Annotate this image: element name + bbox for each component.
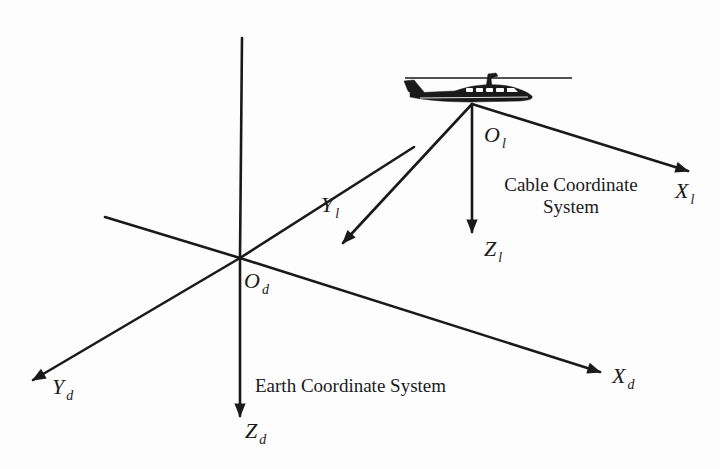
earth-y-sub: d bbox=[66, 388, 73, 403]
earth-x-axis-label: Xd bbox=[612, 365, 634, 387]
earth-z-sub: d bbox=[259, 432, 266, 447]
earth-z-axis-label: Zd bbox=[245, 420, 266, 442]
cable-y-axis-label: Yl bbox=[321, 194, 339, 216]
cable-x-axis-label: Xl bbox=[675, 180, 694, 202]
cable-origin-sub: l bbox=[502, 136, 506, 151]
earth-caption: Earth Coordinate System bbox=[255, 375, 446, 397]
diagram-canvas: Od Xd Yd Zd Earth Coordinate System Ol X… bbox=[0, 0, 720, 469]
cable-z-main: Z bbox=[484, 236, 496, 261]
cable-caption-line1: Cable Coordinate bbox=[490, 174, 652, 196]
cable-caption: Cable Coordinate System bbox=[490, 174, 652, 218]
cable-caption-line2: System bbox=[490, 196, 652, 218]
axes-drawing bbox=[0, 0, 720, 469]
cable-z-axis-label: Zl bbox=[484, 238, 502, 260]
cable-x-sub: l bbox=[690, 192, 694, 207]
earth-z-main: Z bbox=[245, 418, 257, 443]
earth-y-axis bbox=[33, 258, 240, 380]
earth-y-main: Y bbox=[52, 374, 64, 399]
earth-y-axis-label: Yd bbox=[52, 376, 73, 398]
cable-y-main: Y bbox=[321, 192, 333, 217]
cable-x-main: X bbox=[675, 178, 688, 203]
earth-origin-label: Od bbox=[244, 270, 269, 292]
cable-y-axis bbox=[343, 104, 472, 243]
earth-origin-sub: d bbox=[262, 282, 269, 297]
cable-origin-label: Ol bbox=[484, 124, 506, 146]
cable-origin-main: O bbox=[484, 122, 500, 147]
earth-origin-main: O bbox=[244, 268, 260, 293]
earth-x-sub: d bbox=[627, 377, 634, 392]
earth-x-main: X bbox=[612, 363, 625, 388]
earth-z-axis-line bbox=[240, 38, 242, 258]
cable-y-sub: l bbox=[335, 206, 339, 221]
earth-x-axis bbox=[240, 258, 600, 372]
earth-x-axis-negative bbox=[105, 217, 240, 258]
helicopter-icon bbox=[404, 73, 572, 102]
cable-z-sub: l bbox=[498, 250, 502, 265]
